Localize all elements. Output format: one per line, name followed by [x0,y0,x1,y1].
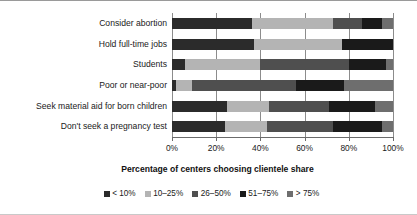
chart-figure: Consider abortionHold full-time jobsStud… [0,0,417,215]
legend-swatch-icon [287,191,293,197]
legend-label: < 10% [112,189,135,198]
category-label: Hold full-time jobs [0,39,167,50]
bar-segment [267,121,333,132]
legend-item[interactable]: 26–50% [192,189,231,198]
x-tick [305,137,306,141]
bar-row [172,121,393,132]
bar-segment [342,39,393,50]
legend-label: 26–50% [201,189,231,198]
bar-segment [172,59,185,70]
legend-item[interactable]: 10–25% [145,189,184,198]
bar-segment [172,121,225,132]
category-label: Students [0,59,167,70]
bar-segment [349,59,387,70]
x-tick-label: 0% [166,143,178,153]
bar-segment [375,101,393,112]
bar-segment [252,18,334,29]
x-axis-title: Percentage of centers choosing clientele… [0,164,417,174]
legend-label: > 75% [296,189,319,198]
legend-swatch-icon [104,191,110,197]
bar-segment [172,18,252,29]
legend-swatch-icon [145,191,151,197]
bar-segment [185,59,260,70]
bar-segment [172,101,227,112]
bar-segment [362,18,382,29]
chart-legend: < 10%10–25%26–50%51–75%> 75% [0,189,417,198]
bar-segment [333,121,382,132]
plot-area [172,13,393,137]
bar-segment [225,121,267,132]
bar-row [172,59,393,70]
x-tick [349,137,350,141]
stacked-bars [172,13,393,137]
legend-item[interactable]: > 75% [287,189,319,198]
legend-swatch-icon [240,191,246,197]
x-tick-label: 80% [340,143,357,153]
category-label: Don't seek a pregnancy test [0,121,167,132]
bar-segment [329,101,375,112]
bar-segment [382,18,393,29]
x-tick [260,137,261,141]
category-label: Seek material aid for born children [0,101,167,112]
legend-label: 10–25% [153,189,183,198]
bar-segment [333,18,362,29]
category-label: Poor or near-poor [0,80,167,91]
bar-segment [176,80,191,91]
bar-row [172,80,393,91]
bar-segment [269,101,329,112]
legend-item[interactable]: < 10% [104,189,136,198]
legend-swatch-icon [192,191,198,197]
bar-row [172,18,393,29]
x-tick-label: 40% [252,143,269,153]
bar-segment [386,59,393,70]
x-axis-line [172,137,394,138]
bar-segment [344,80,393,91]
category-axis-labels: Consider abortionHold full-time jobsStud… [0,13,167,137]
bar-segment [296,80,345,91]
bar-segment [382,121,393,132]
bar-segment [254,39,342,50]
legend-item[interactable]: 51–75% [240,189,279,198]
x-tick-label: 20% [208,143,225,153]
bar-segment [260,59,348,70]
x-tick-label: 100% [382,143,403,153]
bar-segment [192,80,296,91]
bar-row [172,39,393,50]
legend-label: 51–75% [248,189,278,198]
gridline-100 [393,13,394,137]
category-label: Consider abortion [0,18,167,29]
x-tick [216,137,217,141]
x-tick-label: 60% [296,143,313,153]
x-tick [172,137,173,141]
x-tick [393,137,394,141]
bar-segment [227,101,269,112]
bar-segment [172,39,254,50]
bar-row [172,101,393,112]
